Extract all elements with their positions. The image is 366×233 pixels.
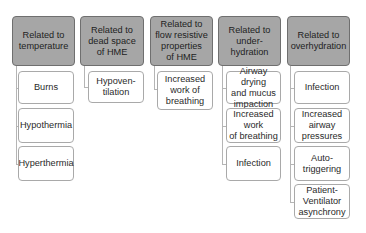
item-hyperthermia: Hyperthermia — [18, 146, 74, 181]
category-overhydration: Related to overhydration — [287, 16, 350, 66]
category-flow-resistance: Related to flow resistive properties of … — [150, 16, 213, 66]
category-temperature: Related to temperature — [12, 16, 75, 66]
item-increased-work-of-breathing-2: Increased work of breathing — [226, 108, 281, 143]
connector-line — [154, 66, 155, 90]
connector-line — [84, 66, 85, 88]
item-infection-overhydration: Infection — [294, 71, 350, 104]
item-infection-underhydration: Infection — [226, 146, 281, 181]
connector-line — [222, 66, 223, 164]
item-increased-work-of-breathing: Increased work of breathing — [157, 71, 213, 110]
item-increased-airway-pressures: Increased airway pressures — [294, 108, 350, 143]
item-patient-ventilator-asynchrony: Patient- Ventilator asynchrony — [294, 184, 350, 219]
hme-complications-diagram: Related to temperature Burns Hypothermia… — [0, 0, 366, 233]
item-hypoventilation: Hypoven- tilation — [88, 71, 144, 103]
category-under-hydration: Related to under- hydration — [218, 16, 281, 66]
item-burns: Burns — [18, 71, 74, 104]
category-dead-space: Related to dead space of HME — [80, 16, 144, 66]
connector-line — [290, 66, 291, 202]
item-airway-drying: Airway drying and mucus impaction — [226, 71, 281, 104]
item-hypothermia: Hypothermia — [18, 108, 74, 143]
item-auto-triggering: Auto- triggering — [294, 146, 350, 181]
connector-line — [16, 66, 17, 164]
